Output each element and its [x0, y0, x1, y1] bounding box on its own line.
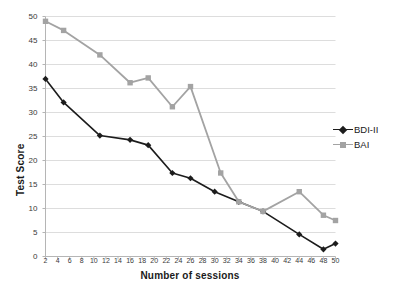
legend-label-bai: BAI	[354, 139, 369, 150]
data-point-marker	[170, 104, 175, 109]
chart-figure: 05101520253035404550 2468101214161820222…	[0, 0, 395, 295]
legend-label-bdi-ii: BDI-II	[354, 124, 378, 135]
data-point-marker	[146, 75, 151, 80]
y-tick-label: 35	[22, 84, 38, 93]
data-point-marker	[332, 240, 338, 246]
series-line-bai	[46, 21, 336, 220]
data-point-marker	[321, 213, 326, 218]
diamond-marker-icon	[339, 125, 347, 133]
data-point-marker	[97, 52, 102, 57]
data-point-marker	[61, 28, 66, 33]
data-series-layer	[42, 19, 338, 253]
y-tick-label: 25	[22, 132, 38, 141]
y-tick-label: 10	[22, 204, 38, 213]
data-point-marker	[218, 170, 223, 175]
y-tick-label: 0	[22, 252, 38, 261]
y-axis-title: Test Score	[2, 92, 16, 202]
data-point-marker	[43, 19, 48, 24]
legend-item-bdi-ii[interactable]: BDI-II	[333, 122, 395, 137]
y-tick-label: 30	[22, 108, 38, 117]
y-axis-title-text: Test Score	[15, 144, 26, 196]
y-tick-label: 5	[22, 228, 38, 237]
legend-marker-bdi-ii	[333, 125, 353, 135]
y-tick-label: 40	[22, 60, 38, 69]
x-axis-title: Number of sessions	[45, 270, 335, 281]
data-point-marker	[187, 175, 193, 181]
y-tick-label: 45	[22, 36, 38, 45]
data-point-marker	[127, 80, 132, 85]
legend-marker-bai	[333, 140, 353, 150]
series-line-bdi-ii	[46, 79, 336, 249]
data-point-marker	[297, 189, 302, 194]
data-point-marker	[236, 199, 241, 204]
data-point-marker	[333, 218, 338, 223]
data-point-marker	[260, 209, 265, 214]
square-marker-icon	[340, 142, 346, 148]
gridlines	[46, 17, 336, 233]
legend-item-bai[interactable]: BAI	[333, 137, 395, 152]
x-tick-label: 50	[329, 257, 343, 264]
data-point-marker	[127, 137, 133, 143]
chart-legend: BDI-II BAI	[333, 122, 395, 152]
y-tick-label: 50	[22, 12, 38, 21]
data-point-marker	[188, 84, 193, 89]
data-point-marker	[212, 189, 218, 195]
